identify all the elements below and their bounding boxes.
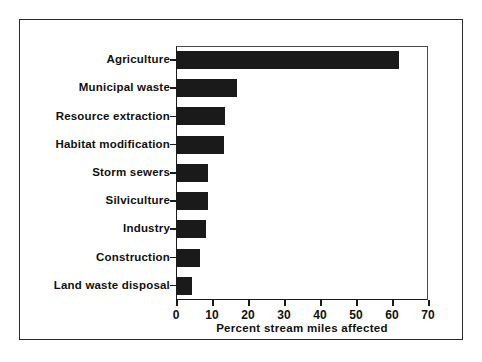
bar-row (176, 159, 428, 187)
x-axis-tick-label: 0 (173, 308, 180, 322)
bars-layer (176, 46, 428, 300)
category-label: Silviculture (20, 194, 170, 206)
bar (176, 107, 225, 125)
x-axis-tick (320, 300, 322, 306)
category-label: Storm sewers (20, 166, 170, 178)
category-label: Municipal waste (20, 81, 170, 93)
x-axis-title: Percent stream miles affected (176, 322, 428, 334)
category-tick (170, 59, 176, 61)
chart-figure: AgricultureMunicipal wasteResource extra… (0, 0, 482, 362)
bar-row (176, 215, 428, 243)
category-tick (170, 116, 176, 118)
bar-row (176, 74, 428, 102)
x-axis-tick (212, 300, 214, 306)
category-label: Habitat modification (20, 138, 170, 150)
bar-row (176, 131, 428, 159)
x-axis-tick-label: 60 (385, 308, 398, 322)
category-label: Industry (20, 222, 170, 234)
bar-row (176, 46, 428, 74)
category-tick (170, 285, 176, 287)
category-label: Agriculture (20, 53, 170, 65)
value-axis: 010203040506070 (176, 300, 428, 340)
category-label: Resource extraction (20, 110, 170, 122)
x-axis-tick-label: 70 (421, 308, 434, 322)
category-label: Land waste disposal (20, 279, 170, 291)
bar-row (176, 244, 428, 272)
x-axis-tick (248, 300, 250, 306)
category-tick (170, 200, 176, 202)
bar (176, 136, 224, 154)
bar (176, 220, 206, 238)
bar (176, 277, 192, 295)
category-tick (170, 172, 176, 174)
category-tick (170, 228, 176, 230)
category-label: Construction (20, 251, 170, 263)
x-axis-tick (428, 300, 430, 306)
bar-row (176, 187, 428, 215)
x-axis-tick (176, 300, 178, 306)
category-tick (170, 257, 176, 259)
bar (176, 164, 208, 182)
x-axis-tick-label: 50 (349, 308, 362, 322)
x-axis-tick-label: 20 (241, 308, 254, 322)
bar (176, 51, 399, 69)
bar-row (176, 272, 428, 300)
x-axis-tick (356, 300, 358, 306)
category-tick (170, 144, 176, 146)
x-axis-tick-label: 10 (205, 308, 218, 322)
category-tick (170, 87, 176, 89)
x-axis-tick (284, 300, 286, 306)
bar-row (176, 102, 428, 130)
category-axis-labels: AgricultureMunicipal wasteResource extra… (20, 46, 170, 300)
bar (176, 192, 208, 210)
x-axis-tick (392, 300, 394, 306)
bar (176, 249, 200, 267)
x-axis-tick-label: 40 (313, 308, 326, 322)
bar (176, 79, 237, 97)
x-axis-tick-label: 30 (277, 308, 290, 322)
